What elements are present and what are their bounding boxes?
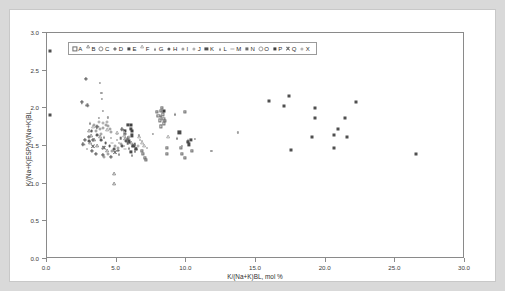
data-point [113,184,115,187]
data-point [116,133,118,135]
data-point [106,151,108,154]
data-point [99,137,101,140]
data-point [48,50,51,53]
legend-item-c[interactable]: C [99,46,110,52]
data-point [107,152,110,155]
data-point [129,127,132,130]
legend-marker-cross-icon [285,46,290,51]
legend-item-n[interactable]: N [244,46,255,52]
data-point [106,129,108,132]
legend-item-i[interactable]: I [180,46,188,52]
x-tick-label: 10.0 [179,264,191,271]
legend-label: I [187,46,189,52]
x-axis-title: K/(Na+K)BL, mol % [46,273,464,280]
data-point [130,134,133,137]
data-point [210,150,212,152]
data-point [181,153,184,156]
y-tick [42,107,46,108]
data-point [128,140,131,143]
legend-item-a[interactable]: A [72,46,82,52]
document-page: K/(Na+K)BL, mol % K/(Na+K)ESP/K/(Na+K)BL… [9,9,496,282]
legend-item-g[interactable]: G [153,46,164,52]
data-point [189,138,192,141]
data-point [117,146,120,149]
data-point [267,99,270,102]
data-point [80,101,83,104]
legend-marker-dot-icon [180,46,185,51]
y-tick [42,70,46,71]
legend-item-d[interactable]: D [113,46,124,52]
legend-label: Q [292,46,297,52]
data-point [167,137,169,140]
data-point [91,138,94,141]
x-tick [46,258,47,262]
legend-item-b[interactable]: B [85,46,95,52]
plot-area [46,32,464,258]
data-point [101,98,103,100]
data-point [282,105,285,108]
data-point [121,145,124,148]
data-point [120,137,123,140]
data-point [95,125,98,128]
legend-marker-dash-icon [230,46,235,51]
legend-item-k[interactable]: K [204,46,214,52]
legend-item-e[interactable]: E [126,46,136,52]
legend-item-p[interactable]: P [272,46,282,52]
legend-label: B [92,46,96,52]
data-point [178,131,181,134]
data-point [140,149,143,152]
data-point [116,132,118,135]
data-point [187,138,189,141]
data-point [103,135,105,138]
legend-item-j[interactable]: J [191,46,200,52]
data-point [90,130,93,133]
data-point [159,125,162,128]
legend-label: M [236,46,241,52]
data-point [102,148,104,151]
legend-item-m[interactable]: M [230,46,241,52]
data-point [121,128,124,131]
data-point [143,156,146,159]
data-point [101,126,104,129]
data-point [96,146,98,149]
data-point [161,113,164,116]
data-point [146,147,148,149]
data-point [93,123,96,126]
legend-label: N [251,46,255,52]
data-point [104,123,107,126]
data-point [110,137,112,139]
legend-marker-filled-square-icon [204,46,209,51]
data-point [129,123,132,126]
legend-item-x[interactable]: X [300,46,310,52]
data-point [333,134,336,137]
legend-item-q[interactable]: Q [285,46,296,52]
data-point [123,131,125,133]
data-point [183,111,186,114]
data-point [96,125,99,128]
legend-marker-open-triangle-icon [85,46,90,51]
legend-label: P [278,46,282,52]
data-point [110,131,113,134]
data-point [84,77,87,80]
data-point [333,146,336,149]
legend-label: K [210,46,214,52]
y-tick [42,183,46,184]
data-point [183,156,186,159]
legend-label: O [264,46,269,52]
data-point [94,129,97,132]
data-point [133,143,136,146]
legend-label: L [223,46,226,52]
data-point [415,153,418,156]
data-point [97,120,100,123]
legend-item-h[interactable]: H [167,46,178,52]
data-point [100,139,103,142]
legend-item-o[interactable]: O [258,46,269,52]
chart-legend[interactable]: ABCDEFGHIJKLMNOPQX [68,42,317,55]
data-point [288,94,291,97]
data-point [117,149,120,152]
data-point [130,143,132,146]
data-point [160,114,162,117]
x-tick-label: 15.0 [249,264,261,271]
legend-item-l[interactable]: L [217,46,227,52]
legend-item-f[interactable]: F [140,46,150,52]
